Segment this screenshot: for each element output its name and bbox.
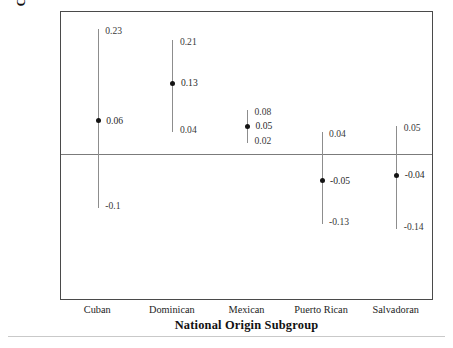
estimate-value-label: 0.13 [181, 78, 198, 88]
x-tick-label-mexican: Mexican [228, 303, 264, 316]
plot-area: 0.230.06-0.10.210.130.040.080.050.020.04… [61, 12, 432, 299]
ci-lower-value-label: -0.1 [105, 201, 120, 211]
ci-lower-value-label: 0.02 [255, 136, 272, 146]
ci-upper-value-label: 0.05 [404, 123, 421, 133]
estimate-point-marker[interactable] [96, 118, 101, 123]
estimate-value-label: 0.05 [256, 121, 273, 131]
ci-upper-value-label: 0.04 [329, 129, 346, 139]
x-axis-tick-labels: CubanDominicanMexicanPuerto RicanSalvado… [60, 303, 433, 318]
zero-reference-line [61, 154, 432, 155]
x-tick-label-salvadoran: Salvadoran [373, 303, 419, 316]
x-tick-label-cuban: Cuban [84, 303, 111, 316]
estimate-point-marker[interactable] [245, 124, 250, 129]
ci-upper-value-label: 0.08 [255, 107, 272, 117]
x-axis-title: National Origin Subgroup [60, 318, 433, 333]
x-tick-label-dominican: Dominican [149, 303, 195, 316]
estimate-value-label: -0.05 [330, 176, 350, 186]
ci-upper-value-label: 0.23 [105, 26, 122, 36]
confidence-interval-whisker [172, 40, 173, 132]
page-divider-rule [8, 336, 445, 337]
ci-lower-value-label: 0.04 [180, 125, 197, 135]
ci-lower-value-label: -0.13 [329, 217, 349, 227]
estimate-value-label: 0.06 [106, 116, 123, 126]
estimate-point-marker[interactable] [394, 173, 399, 178]
plot-frame: 0.230.06-0.10.210.130.040.080.050.020.04… [60, 11, 433, 300]
x-tick-label-puerto-rican: Puerto Rican [294, 303, 347, 316]
estimate-point-marker[interactable] [320, 178, 325, 183]
figure: Change in Predicted Probabilities (Very … [0, 0, 453, 348]
y-axis-title-line-1: Change in Predicted Probabilities [14, 0, 28, 6]
ci-lower-value-label: -0.14 [404, 222, 424, 232]
estimate-value-label: -0.04 [405, 170, 425, 180]
estimate-point-marker[interactable] [170, 81, 175, 86]
confidence-interval-whisker [396, 126, 397, 229]
y-axis-title: Change in Predicted Probabilities (Very … [0, 0, 56, 67]
ci-upper-value-label: 0.21 [180, 37, 197, 47]
